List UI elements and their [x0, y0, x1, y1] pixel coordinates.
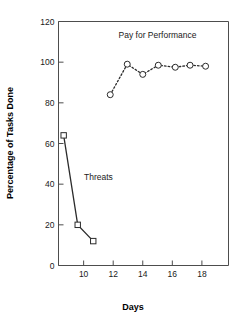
series-lines	[64, 64, 206, 241]
data-point-circle	[187, 62, 193, 68]
axis-frame	[59, 22, 229, 266]
data-point-square	[91, 238, 96, 243]
data-point-square	[61, 133, 66, 138]
y-tick-label: 60	[45, 139, 55, 149]
data-point-circle	[107, 92, 113, 98]
series-inline-labels: ThreatsPay for Performance	[84, 30, 197, 182]
x-axis-tick-labels: 1012141618	[79, 269, 207, 279]
data-point-square	[75, 222, 80, 227]
y-tick-label: 0	[50, 261, 55, 271]
chart-plot-area: 020406080100120 1012141618 ThreatsPay fo…	[0, 0, 240, 318]
series-line-pay-for-performance	[110, 64, 205, 95]
x-tick-label: 14	[138, 269, 148, 279]
x-axis-title: Days	[122, 302, 144, 312]
series-markers	[61, 61, 209, 244]
y-tick-label: 80	[45, 98, 55, 108]
series-label-pay-for-performance: Pay for Performance	[119, 30, 197, 40]
frame-path	[59, 22, 229, 266]
x-tick-label: 10	[79, 269, 89, 279]
series-label-threats: Threats	[84, 172, 113, 182]
y-axis-title: Percentage of Tasks Done	[5, 87, 15, 199]
data-point-circle	[203, 63, 209, 69]
x-axis-ticks	[84, 261, 202, 266]
chart-figure: 020406080100120 1012141618 ThreatsPay fo…	[0, 0, 240, 318]
y-tick-label: 120	[40, 17, 54, 27]
y-tick-label: 20	[45, 220, 55, 230]
y-axis-tick-labels: 020406080100120	[40, 17, 54, 271]
y-tick-label: 100	[40, 57, 54, 67]
y-axis-ticks	[59, 22, 64, 266]
x-tick-label: 16	[168, 269, 178, 279]
data-point-circle	[155, 62, 161, 68]
data-point-circle	[124, 61, 130, 67]
x-tick-label: 12	[108, 269, 118, 279]
y-tick-label: 40	[45, 179, 55, 189]
data-point-circle	[140, 71, 146, 77]
x-tick-label: 18	[197, 269, 207, 279]
data-point-circle	[172, 64, 178, 70]
